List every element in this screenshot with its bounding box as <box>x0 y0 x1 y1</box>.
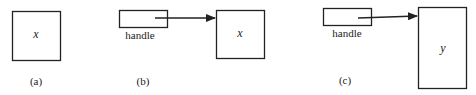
object-label: x <box>32 27 39 41</box>
panel-c: handle y (c) <box>324 8 467 89</box>
handle-diagram: x (a) handle x (b) handle y (c) <box>0 0 476 95</box>
handle-label: handle <box>125 29 154 41</box>
panel-a: x (a) <box>13 12 61 89</box>
panel-b: handle x (b) <box>120 11 265 89</box>
caption: (b) <box>137 75 150 88</box>
object-label: y <box>439 41 446 55</box>
handle-box <box>324 9 372 26</box>
pointer-arrow <box>358 16 417 18</box>
handle-label: handle <box>332 27 361 39</box>
handle-box <box>120 11 168 28</box>
caption: (a) <box>30 75 43 88</box>
object-label: x <box>236 26 243 40</box>
caption: (c) <box>339 74 352 87</box>
